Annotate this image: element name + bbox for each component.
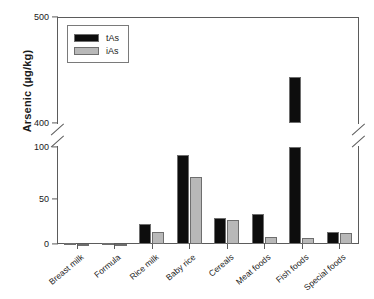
bar-tas — [252, 214, 264, 244]
y-tick-label: 50 — [0, 194, 57, 204]
bar-ias — [190, 177, 202, 244]
bar-tas — [177, 155, 189, 244]
y-tick-label: 500 — [0, 12, 57, 22]
x-tick-mark — [227, 244, 228, 249]
legend-label-ias: iAs — [106, 46, 119, 56]
legend-label-tas: tAs — [106, 33, 119, 43]
bar-tas — [64, 243, 76, 245]
bar-ias — [227, 220, 239, 244]
legend-item-ias: iAs — [74, 44, 119, 57]
x-tick-mark — [152, 244, 153, 249]
bar-tas — [214, 218, 226, 244]
bar-tas-upper — [289, 77, 301, 123]
x-tick-mark — [264, 244, 265, 249]
legend: tAs iAs — [67, 25, 129, 63]
x-tick-mark — [302, 244, 303, 249]
bar-ias — [115, 244, 127, 246]
bar-tas — [139, 224, 151, 244]
legend-swatch-ias-icon — [74, 47, 99, 55]
bar-ias — [77, 244, 89, 246]
bar-tas — [102, 243, 114, 245]
x-tick-mark — [339, 244, 340, 249]
x-tick-mark — [77, 244, 78, 249]
bar-chart: Arsenic (µg/kg) 500400100500 Breast milk… — [0, 0, 374, 299]
y-tick-label: 400 — [0, 118, 57, 128]
x-tick-mark — [114, 244, 115, 249]
bar-ias — [265, 237, 277, 244]
y-tick-label: 100 — [0, 142, 57, 152]
bar-ias — [302, 238, 314, 244]
bar-ias — [340, 233, 352, 244]
bar-tas — [327, 232, 339, 244]
legend-item-tas: tAs — [74, 31, 119, 44]
x-tick-mark — [189, 244, 190, 249]
legend-swatch-tas-icon — [74, 34, 99, 42]
bar-ias — [152, 232, 164, 244]
bar-tas-lower — [289, 147, 301, 244]
y-tick-label: 0 — [0, 239, 57, 249]
